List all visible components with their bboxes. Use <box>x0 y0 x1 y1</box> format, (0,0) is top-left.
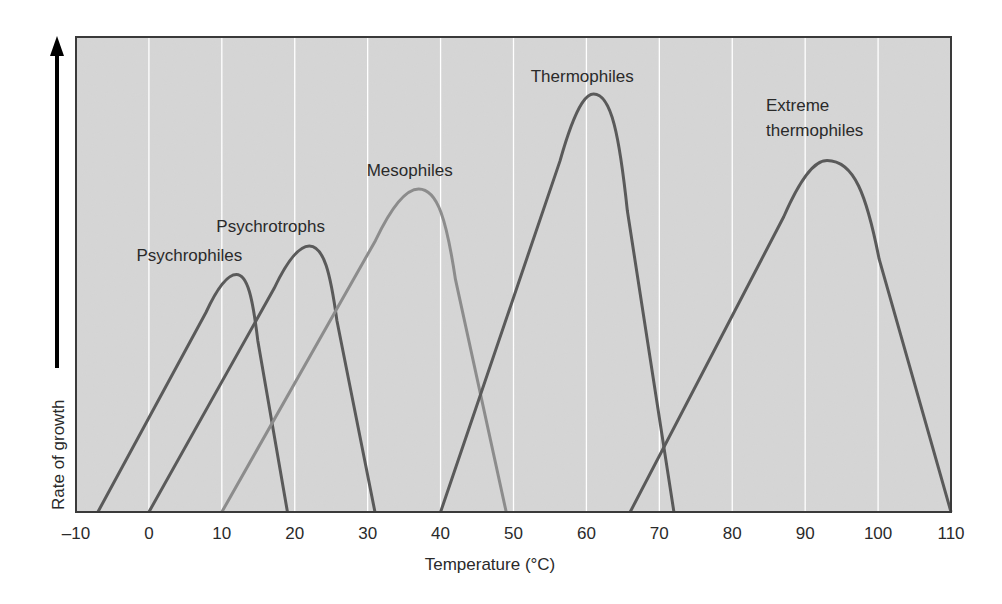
x-tick-label: 40 <box>431 524 450 543</box>
y-axis-arrow-icon <box>50 36 64 368</box>
x-tick-label: –10 <box>62 524 90 543</box>
x-axis-title: Temperature (°C) <box>425 555 556 574</box>
x-tick-label: 0 <box>144 524 153 543</box>
x-tick-label: 30 <box>358 524 377 543</box>
curve-label-psychrotrophs: Psychrotrophs <box>216 217 325 236</box>
x-tick-label: 100 <box>864 524 892 543</box>
x-tick-label: 10 <box>212 524 231 543</box>
x-tick-label: 20 <box>285 524 304 543</box>
x-tick-label: 90 <box>796 524 815 543</box>
curve-label-extreme-thermophiles: thermophiles <box>766 121 863 140</box>
x-axis-tick-labels: –100102030405060708090100110 <box>62 524 965 543</box>
x-tick-label: 80 <box>723 524 742 543</box>
y-axis-title: Rate of growth <box>49 399 68 510</box>
curve-label-extreme-thermophiles: Extreme <box>766 96 829 115</box>
x-tick-label: 50 <box>504 524 523 543</box>
x-tick-label: 110 <box>937 524 964 543</box>
curve-label-mesophiles: Mesophiles <box>367 161 453 180</box>
x-tick-label: 70 <box>650 524 669 543</box>
x-tick-label: 60 <box>577 524 596 543</box>
chart-canvas: –100102030405060708090100110 Temperature… <box>0 0 1002 604</box>
growth-rate-chart: –100102030405060708090100110 Temperature… <box>0 0 1002 604</box>
curve-label-thermophiles: Thermophiles <box>531 67 634 86</box>
curve-label-psychrophiles: Psychrophiles <box>136 246 242 265</box>
